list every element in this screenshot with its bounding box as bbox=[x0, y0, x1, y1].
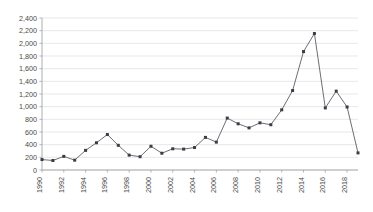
data-point-marker bbox=[269, 123, 272, 126]
x-axis-tick-label: 2004 bbox=[188, 177, 197, 193]
data-point-marker bbox=[182, 148, 185, 151]
data-point-marker bbox=[95, 141, 98, 144]
data-point-marker bbox=[313, 32, 316, 35]
data-point-marker bbox=[280, 108, 283, 111]
chart-canvas: 02004006008001,0001,2001,4001,6001,8002,… bbox=[0, 0, 373, 212]
x-axis-tick-label: 2018 bbox=[340, 177, 349, 193]
data-point-marker bbox=[204, 136, 207, 139]
data-point-marker bbox=[335, 90, 338, 93]
data-point-marker bbox=[215, 141, 218, 144]
y-axis-tick-label: 1,800 bbox=[19, 52, 37, 61]
data-point-marker bbox=[171, 147, 174, 150]
data-point-marker bbox=[139, 155, 142, 158]
x-axis-tick-label: 2014 bbox=[297, 177, 306, 193]
y-axis-tick-label: 2,000 bbox=[19, 39, 37, 48]
data-point-marker bbox=[73, 159, 76, 162]
x-axis-tick-label: 2002 bbox=[166, 177, 175, 193]
data-point-marker bbox=[357, 151, 360, 154]
y-axis-tick-label: 2,200 bbox=[19, 26, 37, 35]
data-point-marker bbox=[226, 117, 229, 120]
line-chart: 02004006008001,0001,2001,4001,6001,8002,… bbox=[0, 0, 373, 212]
x-axis-tick-label: 1998 bbox=[122, 177, 131, 193]
x-axis-tick-label: 2000 bbox=[144, 177, 153, 193]
x-axis-tick-label: 1992 bbox=[57, 177, 66, 193]
data-point-marker bbox=[51, 159, 54, 162]
data-point-marker bbox=[346, 105, 349, 108]
y-axis-tick-label: 2,400 bbox=[19, 14, 37, 23]
y-axis-tick-label: 200 bbox=[25, 153, 37, 162]
data-point-marker bbox=[302, 50, 305, 53]
data-point-marker bbox=[128, 154, 131, 157]
data-point-marker bbox=[149, 145, 152, 148]
y-axis-tick-label: 1,400 bbox=[19, 77, 37, 86]
y-axis-tick-label: 800 bbox=[25, 115, 37, 124]
data-point-marker bbox=[193, 146, 196, 149]
x-axis-tick-label: 1994 bbox=[79, 177, 88, 193]
x-axis-tick-label: 1990 bbox=[35, 177, 44, 193]
y-axis-tick-label: 1,200 bbox=[19, 90, 37, 99]
y-axis-tick-label: 400 bbox=[25, 140, 37, 149]
x-axis-tick-label: 1996 bbox=[100, 177, 109, 193]
data-point-marker bbox=[324, 106, 327, 109]
x-axis-tick-labels: 1990199219941996199820002002200420062008… bbox=[35, 177, 349, 193]
x-axis-tick-label: 2012 bbox=[275, 177, 284, 193]
data-point-marker bbox=[248, 126, 251, 129]
data-point-marker bbox=[106, 133, 109, 136]
data-point-marker bbox=[291, 89, 294, 92]
data-point-marker bbox=[84, 149, 87, 152]
x-axis-tick-label: 2010 bbox=[253, 177, 262, 193]
data-point-marker bbox=[258, 121, 261, 124]
x-axis-tick-label: 2008 bbox=[231, 177, 240, 193]
y-axis-tick-label: 1,000 bbox=[19, 102, 37, 111]
data-point-marker bbox=[117, 144, 120, 147]
data-point-marker bbox=[41, 158, 44, 161]
y-axis-tick-label: 0 bbox=[33, 166, 37, 175]
x-axis-tick-label: 2006 bbox=[209, 177, 218, 193]
x-axis-tick-label: 2016 bbox=[318, 177, 327, 193]
data-point-marker bbox=[62, 155, 65, 158]
y-axis-tick-label: 1,600 bbox=[19, 64, 37, 73]
y-axis-tick-label: 600 bbox=[25, 128, 37, 137]
data-point-marker bbox=[160, 152, 163, 155]
data-point-marker bbox=[237, 122, 240, 125]
